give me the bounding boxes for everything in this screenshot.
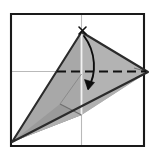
diagram-canvas bbox=[0, 0, 155, 156]
origami-diagram bbox=[0, 0, 155, 156]
